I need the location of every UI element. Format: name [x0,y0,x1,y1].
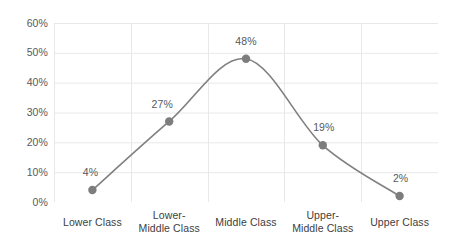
data-point-marker[interactable] [165,117,173,125]
x-axis-category-label-line: Upper- [306,209,339,221]
data-point-marker[interactable] [242,55,250,63]
y-axis-tick-label: 40% [4,77,48,88]
chart-plot-svg [54,23,438,202]
y-axis-tick-label: 30% [4,107,48,118]
y-axis-tick-label: 60% [4,18,48,29]
x-axis-category-label: Lower Class [50,216,134,229]
x-axis-category-label: Upper Class [358,216,442,229]
data-point-label: 19% [313,122,334,133]
y-axis-tick-label: 50% [4,47,48,58]
data-point-label: 4% [83,167,98,178]
x-axis-category-label: Upper-Middle Class [281,209,365,235]
x-axis-category-label: Lower-Middle Class [127,209,211,235]
y-axis-tick-label: 0% [4,197,48,208]
data-point-marker[interactable] [88,186,96,194]
data-point-label: 27% [152,99,173,110]
data-point-label: 2% [393,173,408,184]
x-axis-category-label-line: Upper Class [370,216,429,228]
data-series-line [92,59,399,196]
x-axis-category-label: Middle Class [204,216,288,229]
data-point-markers [88,55,404,201]
x-axis-category-label-line: Lower- [153,209,186,221]
x-axis-category-label-line: Middle Class [215,216,276,228]
data-point-marker[interactable] [395,192,403,200]
y-axis-tick-label: 20% [4,137,48,148]
line-chart: 0%10%20%30%40%50%60% Lower ClassLower-Mi… [0,0,455,246]
data-point-label: 48% [235,36,256,47]
x-axis-category-label-line: Middle Class [127,222,211,235]
x-axis: Lower ClassLower-Middle ClassMiddle Clas… [54,205,438,246]
data-point-marker[interactable] [319,141,327,149]
y-axis-tick-label: 10% [4,167,48,178]
gridlines [54,23,438,202]
x-axis-category-label-line: Middle Class [281,222,365,235]
plot-area [54,23,438,202]
x-axis-category-label-line: Lower Class [63,216,122,228]
y-axis: 0%10%20%30%40%50%60% [0,0,48,246]
